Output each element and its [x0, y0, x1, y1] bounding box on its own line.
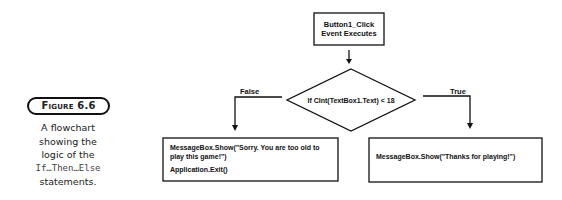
false-box-text: MessageBox.Show("Sorry. You are too old … [170, 144, 335, 175]
false-box-line: MessageBox.Show("Sorry. You are too old … [170, 144, 335, 153]
true-box-text: MessageBox.Show("Thanks for playing!") [376, 152, 536, 161]
false-connector [235, 97, 282, 126]
false-box-line: play this game!") [170, 153, 335, 162]
true-connector [423, 96, 470, 124]
false-box-line: Application.Exit() [170, 166, 335, 175]
decision-text: If CInt(TextBox1.Text) < 18 [296, 96, 406, 105]
false-label: False [240, 87, 259, 96]
true-label: True [450, 87, 466, 96]
start-line: Event Executes [314, 29, 384, 38]
start-node-text: Button1_Click Event Executes [314, 20, 384, 38]
start-line: Button1_Click [314, 20, 384, 29]
